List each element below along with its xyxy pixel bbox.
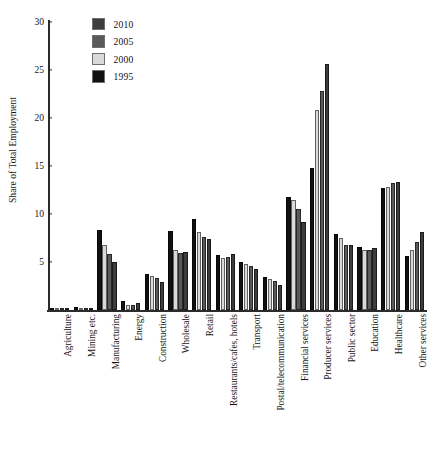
x-tick-label: Manufacturing [111,259,121,314]
legend-swatch [92,53,105,66]
x-tick-label: Mining etc. [87,271,97,314]
x-axis-labels: AgricultureMining etc.ManufacturingEnerg… [48,312,426,442]
x-tick-label: Agriculture [63,271,73,314]
bar [121,301,125,310]
x-tick-label: Financial services [300,247,310,314]
y-axis-ticks: 51015202530 [0,0,44,449]
bar-group [190,22,214,310]
x-tick-label-text: Energy [134,314,144,341]
legend-label: 1995 [114,71,134,82]
legend-item: 2010 [92,18,134,30]
y-tick-label: 5 [39,257,44,267]
bar [410,250,414,310]
legend-label: 2010 [114,19,134,30]
bar [381,188,385,310]
bar [74,307,78,310]
y-tick-mark [48,261,52,262]
legend-label: 2005 [114,36,134,47]
y-tick-label: 15 [35,161,45,171]
bar [339,238,343,310]
x-tick-label: Energy [134,287,144,314]
bar [362,250,366,310]
x-tick-label: Wholesale [181,275,191,314]
x-tick-label: Restaurants/cafes, hotels [229,222,239,314]
bar [334,234,338,310]
y-tick-mark [48,21,52,22]
x-tick-label-text: Wholesale [181,314,191,353]
bar [216,255,220,310]
y-tick-label: 20 [35,113,45,123]
bar [192,219,196,310]
x-tick-label-text: Education [370,314,380,352]
bar [244,264,248,310]
x-tick-label: Public sector [347,266,357,314]
x-tick-label: Transport [252,278,262,314]
x-tick-label: Education [370,276,380,314]
y-tick-mark [48,69,52,70]
legend-swatch [92,18,105,31]
y-tick-mark [48,117,52,118]
bar [310,168,314,310]
legend-item: 1995 [92,71,134,83]
x-tick-label: Healthcare [394,274,404,314]
bar [126,305,130,310]
x-tick-label-text: Construction [158,314,168,362]
bar [315,110,319,310]
x-tick-label-text: Postal/telecommunication [276,314,286,411]
x-tick-label-text: Manufacturing [111,314,121,369]
x-tick-label-text: Mining etc. [87,314,97,357]
y-tick-mark [48,213,52,214]
bar [291,200,295,310]
bar [150,276,154,310]
y-tick-label: 25 [35,65,45,75]
bar [221,258,225,310]
bar [405,256,409,310]
x-tick-label-text: Public sector [347,314,357,362]
bar [173,250,177,310]
bar-group [237,22,261,310]
y-tick-label: 30 [35,17,45,27]
bar [286,197,290,310]
x-tick-label: Postal/telecommunication [276,217,286,314]
bar [357,247,361,310]
bar [55,308,59,310]
y-tick-label: 10 [35,209,45,219]
x-tick-label-text: Transport [252,314,262,350]
legend-swatch [92,70,105,83]
bar [263,277,267,310]
bar-chart-figure: Share of Total Employment 51015202530 Ag… [0,0,434,449]
bar [79,308,83,310]
legend-item: 2005 [92,36,134,48]
bar-group [379,22,403,310]
x-tick-label: Retail [205,292,215,314]
x-tick-label-text: Producer services [323,314,333,380]
y-tick-mark [48,165,52,166]
bar [145,274,149,310]
x-tick-label-text: Agriculture [63,314,73,357]
bar [97,230,101,310]
bar-group [355,22,379,310]
x-tick-label: Other services [418,261,428,314]
bar [239,262,243,310]
chart-legend: 2010200520001995 [92,18,134,83]
legend-swatch [92,35,105,48]
bar [50,308,54,310]
x-tick-label-text: Restaurants/cafes, hotels [229,314,239,406]
bar [168,231,172,310]
bar [102,245,106,310]
x-tick-label-text: Retail [205,314,215,336]
bar [268,279,272,310]
x-tick-label: Producer services [323,248,333,314]
bar [386,187,390,310]
x-tick-label-text: Financial services [300,314,310,381]
legend-item: 2000 [92,53,134,65]
bar [197,232,201,310]
x-tick-label-text: Other services [418,314,428,367]
legend-label: 2000 [114,54,134,65]
bar-group [166,22,190,310]
x-tick-label-text: Healthcare [394,314,404,354]
x-tick-label: Construction [158,266,168,314]
